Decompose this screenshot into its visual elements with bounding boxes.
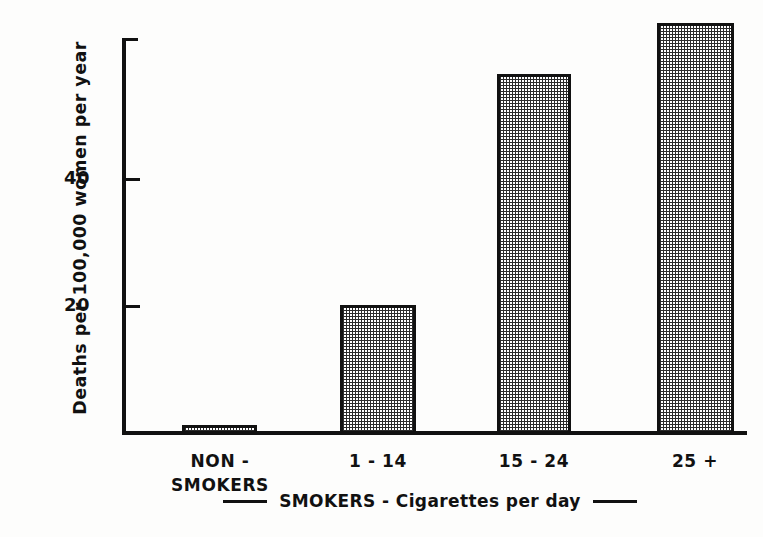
y-tick-label-40: 40 [38, 167, 90, 188]
bar-1-14[interactable] [340, 305, 416, 434]
y-axis-title: Deaths per 100,000 women per year [70, 28, 90, 428]
category-label-1-14: 1 - 14 [317, 449, 439, 473]
bar-25-plus[interactable] [657, 23, 734, 434]
legend-rule-right [593, 500, 637, 503]
category-label-non-smokers: NON - SMOKERS [159, 449, 281, 497]
y-tick-mark-40 [126, 178, 140, 181]
bar-15-24[interactable] [497, 74, 571, 434]
y-tick-mark-20 [126, 305, 140, 308]
x-axis-caption-text: SMOKERS - Cigarettes per day [279, 491, 581, 511]
legend-rule-left [223, 500, 267, 503]
bar-chart-figure: Deaths per 100,000 women per year 40 20 … [0, 0, 763, 537]
y-axis-top-cap [122, 38, 138, 41]
bar-non-smokers[interactable] [182, 425, 257, 434]
category-label-25-plus: 25 + [634, 449, 756, 473]
y-axis-line [122, 38, 126, 434]
x-axis-caption: SMOKERS - Cigarettes per day [170, 491, 690, 511]
category-label-15-24: 15 - 24 [473, 449, 595, 473]
y-tick-label-20: 20 [38, 294, 90, 315]
